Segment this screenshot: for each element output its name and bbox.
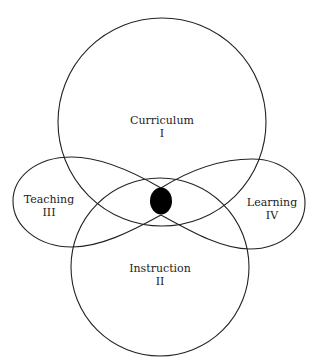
- diagram-canvas: Curriculum I Instruction II Teaching III…: [0, 0, 315, 361]
- instruction-label: Instruction II: [129, 262, 191, 288]
- center-overlap-mark: [150, 188, 172, 215]
- learning-label: Learning IV: [247, 196, 297, 222]
- instruction-name: Instruction: [129, 262, 191, 275]
- diagram-shapes: [0, 0, 315, 361]
- teaching-name: Teaching: [24, 193, 74, 206]
- curriculum-label: Curriculum I: [130, 114, 194, 140]
- teaching-label: Teaching III: [24, 193, 74, 219]
- instruction-numeral: II: [129, 275, 191, 288]
- curriculum-numeral: I: [130, 127, 194, 140]
- teaching-numeral: III: [24, 206, 74, 219]
- learning-name: Learning: [247, 196, 297, 209]
- curriculum-name: Curriculum: [130, 114, 194, 127]
- learning-numeral: IV: [247, 209, 297, 222]
